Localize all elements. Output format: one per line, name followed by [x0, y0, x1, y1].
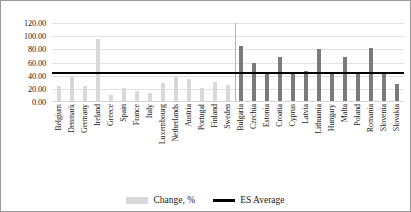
bar [96, 39, 100, 102]
chart-container: 0.0020.0040.0060.0080.00100.00120.00 Bel… [0, 0, 411, 212]
bar [70, 77, 74, 102]
bar-slot [182, 23, 195, 102]
bar-slot [287, 23, 300, 102]
x-axis-category-label: Bulgaria [237, 104, 245, 131]
x-axis-category-labels: BelgiumDenmarkGermanyIrelandGreeceSpainF… [52, 104, 404, 166]
bar-slot [78, 23, 91, 102]
x-axis-category-label: Czechia [250, 104, 258, 129]
bar [265, 72, 269, 102]
bar [369, 48, 373, 102]
x-axis-category-label: Slovenia [380, 104, 388, 131]
bar-slot [169, 23, 182, 102]
bar [226, 85, 230, 102]
bar-slot [378, 23, 391, 102]
bar-slot [391, 23, 404, 102]
bar [57, 86, 61, 102]
x-axis-category-label: Spain [120, 104, 128, 122]
bar [200, 88, 204, 102]
y-axis: 0.0020.0040.0060.0080.00100.00120.00 [1, 23, 49, 102]
x-axis-category-label: Lithuania [315, 104, 323, 134]
y-axis-tick-label: 0.00 [32, 98, 46, 107]
bar [278, 57, 282, 102]
bar-slot [104, 23, 117, 102]
bar-slot [156, 23, 169, 102]
bar-slot [261, 23, 274, 102]
x-axis-baseline [52, 101, 404, 102]
bar [356, 74, 360, 102]
bar-slot [208, 23, 221, 102]
bar-slot [130, 23, 143, 102]
es-average-line [52, 72, 404, 74]
bar [317, 49, 321, 102]
bar-slot [195, 23, 208, 102]
bar [343, 57, 347, 102]
bar [382, 72, 386, 102]
bar [395, 84, 399, 102]
plot-area [52, 23, 404, 102]
x-axis-category-label: Portugal [198, 104, 206, 130]
bar-series [52, 23, 404, 102]
bar [187, 79, 191, 102]
group-separator [235, 23, 236, 102]
x-axis-category-label: Cyprus [289, 104, 297, 127]
bar-slot [221, 23, 234, 102]
bar-slot [365, 23, 378, 102]
x-axis-category-label: Germany [81, 104, 89, 133]
y-axis-tick-label: 120.00 [24, 19, 46, 28]
bar [304, 71, 308, 102]
bar [83, 86, 87, 102]
legend-item-change: Change, % [126, 195, 195, 205]
x-axis-category-label: Austria [185, 104, 193, 127]
y-axis-tick-label: 60.00 [28, 58, 46, 67]
legend-bar-swatch-icon [126, 197, 148, 204]
y-axis-tick-label: 20.00 [28, 84, 46, 93]
bar-slot [91, 23, 104, 102]
legend-item-es-average: ES Average [213, 195, 284, 205]
bar [174, 77, 178, 102]
chart-legend: Change, % ES Average [1, 195, 410, 205]
bar-slot [274, 23, 287, 102]
x-axis-category-label: Malta [341, 104, 349, 122]
x-axis-category-label: Slovakia [393, 104, 401, 131]
bar-slot [300, 23, 313, 102]
x-axis-category-label: Italy [146, 104, 154, 118]
x-axis-category-label: Hungary [328, 104, 336, 131]
x-axis-category-label: Denmark [68, 104, 76, 133]
bar [213, 82, 217, 102]
x-axis-category-label: France [133, 104, 141, 125]
bar-slot [352, 23, 365, 102]
bar-slot [313, 23, 326, 102]
bar-slot [117, 23, 130, 102]
x-axis-category-label: Sweden [224, 104, 232, 129]
bar [122, 88, 126, 102]
bar [161, 83, 165, 102]
y-axis-tick-label: 100.00 [24, 32, 46, 41]
x-axis-category-label: Estonia [263, 104, 271, 127]
x-axis-category-label: Croatia [276, 104, 284, 127]
x-axis-category-label: Ireland [94, 104, 102, 126]
bar-slot [65, 23, 78, 102]
bar [330, 72, 334, 102]
bar-slot [248, 23, 261, 102]
legend-line-swatch-icon [213, 199, 235, 202]
bar-slot [326, 23, 339, 102]
x-axis-category-label: Belgium [55, 104, 63, 131]
x-axis-category-label: Latvia [302, 104, 310, 124]
bar-slot [235, 23, 248, 102]
bar-slot [339, 23, 352, 102]
legend-label-change: Change, % [153, 195, 195, 205]
x-axis-category-label: Finland [211, 104, 219, 128]
bar [291, 74, 295, 102]
bar [252, 63, 256, 103]
x-axis-category-label: Romania [367, 104, 375, 132]
y-axis-tick-label: 40.00 [28, 71, 46, 80]
bar-slot [52, 23, 65, 102]
bar-slot [143, 23, 156, 102]
x-axis-category-label: Poland [354, 104, 362, 126]
x-axis-category-label: Luxembourg [159, 104, 167, 144]
x-axis-category-label: Netherlands [172, 104, 180, 142]
x-axis-category-label: Greece [107, 104, 115, 126]
legend-label-es-average: ES Average [240, 195, 284, 205]
y-axis-tick-label: 80.00 [28, 45, 46, 54]
